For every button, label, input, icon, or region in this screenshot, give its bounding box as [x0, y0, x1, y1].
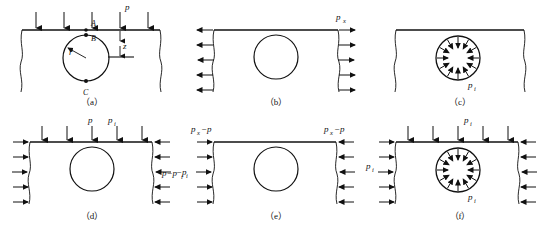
left-break-edge: [394, 30, 396, 92]
panel-a: p A B C r z （a）: [0, 0, 184, 110]
panel-f-top-sub: i: [470, 120, 472, 127]
top-load-arrows: [408, 126, 508, 140]
panel-d-caption: （d）: [0, 209, 184, 222]
panel-c-caption: （c）: [368, 95, 552, 108]
panel-c: p i （c）: [368, 0, 552, 110]
panel-f-left-label: p: [365, 161, 371, 171]
point-b-marker: [84, 33, 88, 37]
panel-c-internal-sub: i: [474, 85, 476, 92]
panel-d-top-right-sub: i: [114, 120, 116, 127]
right-lateral-arrows: [339, 142, 355, 202]
panel-b-caption: （b）: [184, 95, 368, 108]
left-lateral-arrows: [378, 142, 394, 202]
right-break-edge: [338, 30, 340, 92]
circular-opening: [254, 35, 298, 79]
panel-a-point-a-label: A: [90, 19, 96, 28]
circular-opening: [70, 147, 114, 191]
panel-b: p x （b）: [184, 0, 368, 110]
panel-f-top-label: p: [463, 115, 469, 125]
left-break-edge: [212, 30, 214, 92]
left-lateral-arrows: [197, 30, 214, 90]
panel-c-internal-label: p: [467, 80, 473, 90]
panel-a-point-b-label: B: [91, 34, 96, 43]
panel-f-hole-sub: i: [474, 197, 476, 204]
panel-e-caption: （e）: [184, 209, 368, 222]
left-break-edge: [212, 142, 214, 204]
left-break-edge: [20, 30, 22, 92]
depth-dimension: [108, 31, 134, 57]
panel-d-top-left-label: p: [87, 115, 93, 125]
panel-b-drawing: p x: [184, 0, 368, 110]
panel-a-caption: （a）: [0, 95, 184, 108]
figure-container: p A B C r z （a）: [0, 0, 552, 235]
panel-d-top-right-label: p: [107, 115, 113, 125]
panel-e-corner-right-rest: −p: [334, 124, 345, 134]
left-break-edge: [28, 142, 30, 204]
left-break-edge: [394, 142, 396, 204]
panel-f-caption: （f）: [368, 209, 552, 222]
right-break-edge: [524, 30, 526, 92]
left-lateral-arrows: [12, 142, 28, 202]
panel-e-corner-right-sub: x: [329, 129, 333, 136]
panel-f-left-sub: i: [372, 166, 374, 173]
panel-e-corner-right-label: p: [323, 124, 329, 134]
panel-a-radius-label: r: [69, 47, 73, 57]
left-lateral-arrows: [196, 142, 212, 202]
top-load-arrows: [42, 126, 142, 140]
right-lateral-arrows: [338, 30, 355, 90]
right-break-edge: [336, 142, 338, 204]
panel-f: p i p i p i （f）: [368, 112, 552, 235]
circular-opening: [254, 147, 298, 191]
panel-a-depth-label: z: [122, 41, 127, 51]
panel-a-load-label: p: [124, 2, 130, 12]
panel-e-side-sub: i: [186, 172, 188, 179]
panel-e-corner-left-sub: x: [196, 129, 200, 136]
right-break-edge: [152, 142, 154, 204]
radial-pressure-arrows: [437, 149, 479, 191]
panel-c-drawing: p i: [368, 0, 552, 110]
panel-a-drawing: p A B C r z: [0, 0, 184, 110]
point-c-marker: [84, 79, 88, 83]
panel-f-hole-label: p: [467, 192, 473, 202]
panel-b-lateral-label: p: [335, 12, 341, 22]
right-break-edge: [160, 30, 162, 92]
radial-pressure-arrows: [437, 37, 479, 79]
panel-e-corner-left-label: p: [190, 124, 196, 134]
panel-e: p x −p p x −p −p i （e）: [184, 112, 368, 235]
panel-e-corner-left-rest: −p: [201, 124, 212, 134]
right-lateral-arrows: [521, 142, 537, 202]
panel-d: p p i p−p i （d）: [0, 112, 184, 235]
panel-b-lateral-sub: x: [342, 17, 346, 24]
right-break-edge: [518, 142, 520, 204]
point-a-marker: [84, 28, 88, 32]
